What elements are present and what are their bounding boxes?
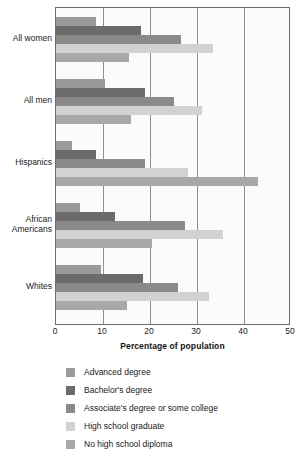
legend: Advanced degreeBachelor's degreeAssociat… xyxy=(66,363,296,453)
x-tick-label-50: 50 xyxy=(285,326,294,336)
bar xyxy=(56,239,152,248)
bar xyxy=(56,168,188,177)
legend-item: Associate's degree or some college xyxy=(66,399,296,417)
x-tick-label-40: 40 xyxy=(238,326,247,336)
bar-group xyxy=(56,265,289,311)
category-label: Hispanics xyxy=(0,157,52,167)
legend-item: Advanced degree xyxy=(66,363,296,381)
bar xyxy=(56,221,185,230)
bar-group xyxy=(56,79,289,125)
legend-item: Bachelor's degree xyxy=(66,381,296,399)
legend-label: Associate's degree or some college xyxy=(84,403,218,413)
bar xyxy=(56,88,145,97)
legend-item: No high school diploma xyxy=(66,435,296,453)
bar xyxy=(56,301,127,310)
category-label: All men xyxy=(0,95,52,105)
bar xyxy=(56,159,145,168)
legend-item: High school graduate xyxy=(66,417,296,435)
bar xyxy=(56,17,96,26)
bar xyxy=(56,97,174,106)
x-tick-label-10: 10 xyxy=(97,326,106,336)
category-label: All women xyxy=(0,33,52,43)
bars-layer xyxy=(56,8,289,324)
legend-label: High school graduate xyxy=(84,421,164,431)
bar-group xyxy=(56,17,289,63)
bar xyxy=(56,79,105,88)
category-label: African Americans xyxy=(0,214,52,234)
bar xyxy=(56,177,258,186)
bar-group xyxy=(56,203,289,249)
bar xyxy=(56,265,101,274)
plot-area xyxy=(55,7,290,325)
bar xyxy=(56,150,96,159)
bar xyxy=(56,26,141,35)
legend-label: Bachelor's degree xyxy=(84,385,152,395)
bar-group xyxy=(56,141,289,187)
legend-swatch-icon xyxy=(66,404,75,413)
bar xyxy=(56,115,131,124)
legend-label: No high school diploma xyxy=(84,439,172,449)
category-label: Whites xyxy=(0,281,52,291)
bar xyxy=(56,230,223,239)
bar xyxy=(56,106,202,115)
legend-swatch-icon xyxy=(66,386,75,395)
bar xyxy=(56,53,129,62)
legend-swatch-icon xyxy=(66,368,75,377)
legend-swatch-icon xyxy=(66,422,75,431)
bar xyxy=(56,35,181,44)
bar xyxy=(56,44,213,53)
education-attainment-bar-chart: All womenAll menHispanicsAfrican America… xyxy=(0,0,301,459)
bar xyxy=(56,141,72,150)
x-axis-tick-labels: 01020304050 xyxy=(55,326,290,340)
bar xyxy=(56,203,80,212)
legend-label: Advanced degree xyxy=(84,367,151,377)
bar xyxy=(56,212,115,221)
bar xyxy=(56,292,209,301)
bar xyxy=(56,283,178,292)
x-tick-label-20: 20 xyxy=(144,326,153,336)
bar xyxy=(56,274,143,283)
x-tick-label-30: 30 xyxy=(191,326,200,336)
x-tick-label-0: 0 xyxy=(53,326,58,336)
x-axis-title: Percentage of population xyxy=(55,341,290,351)
legend-swatch-icon xyxy=(66,440,75,449)
